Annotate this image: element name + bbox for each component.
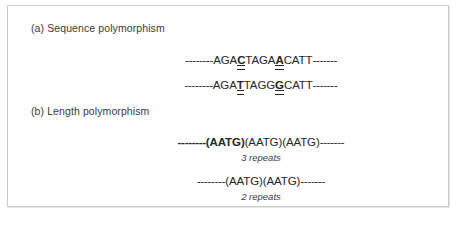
sequence-segment: AGA <box>213 79 237 91</box>
sequence-segment: CATT <box>284 54 313 66</box>
flank-right-dashes: ------- <box>312 54 337 66</box>
variant-base: T <box>237 78 244 92</box>
flank-right-dashes: ------- <box>313 79 338 91</box>
variant-base: G <box>275 78 284 92</box>
flank-left-dashes: -------- <box>185 79 213 91</box>
flank-left-dashes: -------- <box>197 175 225 187</box>
sequence-row-allele-1: --------AGACTAGAACATT------- <box>8 53 448 67</box>
panel-a-label: (a) Sequence polymorphism <box>31 22 165 35</box>
sequence-row-allele-2: --------AGATTAGGGCATT------- <box>8 78 448 92</box>
variant-base: C <box>237 53 245 67</box>
figure-panel: (a) Sequence polymorphism --------AGACTA… <box>7 5 449 207</box>
repeat-unit: (AATG) <box>263 175 301 187</box>
repeat-count-caption: 3 repeats <box>8 152 448 164</box>
flank-left-dashes: -------- <box>185 54 213 66</box>
repeat-unit-highlighted: (AATG) <box>206 136 245 148</box>
repeat-count-caption: 2 repeats <box>8 191 448 203</box>
sequence-segment: AGA <box>213 54 237 66</box>
flank-right-dashes: ------- <box>300 175 325 187</box>
panel-b-label: (b) Length polymorphism <box>31 105 149 118</box>
sequence-segment: TAGA <box>245 54 275 66</box>
repeat-unit: (AATG) <box>245 136 283 148</box>
variant-base: A <box>275 53 283 67</box>
sequence-segment: CATT <box>284 79 313 91</box>
flank-right-dashes: ------- <box>320 136 345 148</box>
repeat-unit: (AATG) <box>282 136 320 148</box>
flank-left-dashes: -------- <box>178 136 206 148</box>
sequence-segment: TAGG <box>244 79 275 91</box>
repeat-row-3-repeats: --------(AATG)(AATG)(AATG)------- <box>8 135 448 149</box>
repeat-row-2-repeats: --------(AATG)(AATG)------- <box>8 174 448 188</box>
repeat-unit: (AATG) <box>225 175 263 187</box>
